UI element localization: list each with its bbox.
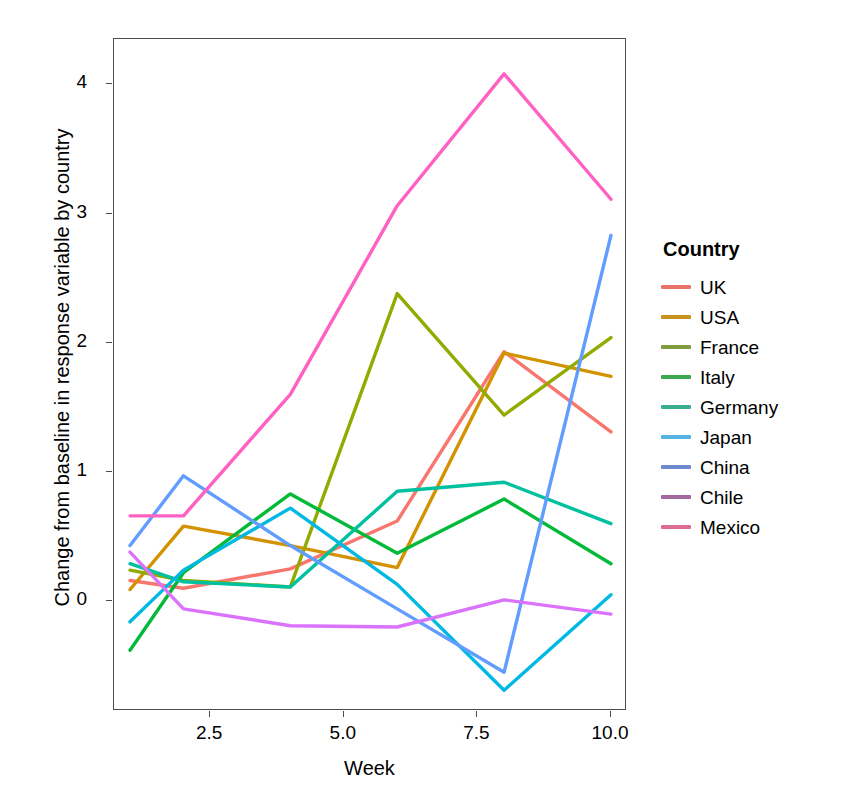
- x-tick-mark: [476, 711, 477, 717]
- y-tick-label: 1: [76, 460, 87, 479]
- legend-item-label: Mexico: [700, 518, 760, 537]
- legend-color-swatch-icon: [661, 495, 691, 499]
- legend-item-mexico[interactable]: Mexico: [661, 512, 778, 542]
- legend-items: UKUSAFranceItalyGermanyJapanChinaChileMe…: [661, 272, 778, 542]
- y-tick-mark: [106, 213, 112, 214]
- y-tick-mark: [106, 342, 112, 343]
- legend-color-swatch-icon: [661, 375, 691, 379]
- legend-item-japan[interactable]: Japan: [661, 422, 778, 452]
- y-tick-label: 3: [76, 202, 87, 221]
- y-tick-mark: [106, 471, 112, 472]
- legend-color-swatch-icon: [661, 525, 691, 529]
- x-tick-mark: [610, 711, 611, 717]
- legend-item-germany[interactable]: Germany: [661, 392, 778, 422]
- y-tick-label: 4: [76, 72, 87, 91]
- legend-title: Country: [663, 238, 778, 261]
- legend-item-uk[interactable]: UK: [661, 272, 778, 302]
- x-tick-label: 5.0: [308, 722, 378, 744]
- chart-root: Change from baseline in response variabl…: [0, 0, 843, 811]
- legend-color-swatch-icon: [661, 315, 691, 319]
- legend: Country UKUSAFranceItalyGermanyJapanChin…: [661, 238, 778, 542]
- legend-item-label: Chile: [700, 488, 743, 507]
- y-tick-label: 0: [76, 589, 87, 608]
- legend-item-france[interactable]: France: [661, 332, 778, 362]
- y-tick-mark: [106, 600, 112, 601]
- series-line-china: [130, 235, 611, 672]
- plot-panel: [113, 38, 626, 710]
- legend-item-chile[interactable]: Chile: [661, 482, 778, 512]
- y-tick-label: 2: [76, 331, 87, 350]
- legend-item-label: Italy: [700, 368, 735, 387]
- legend-item-china[interactable]: China: [661, 452, 778, 482]
- legend-color-swatch-icon: [661, 345, 691, 349]
- legend-item-label: UK: [700, 278, 726, 297]
- x-tick-label: 10.0: [575, 722, 645, 744]
- x-tick-label: 7.5: [441, 722, 511, 744]
- legend-item-italy[interactable]: Italy: [661, 362, 778, 392]
- series-line-uk: [130, 352, 611, 588]
- x-tick-label: 2.5: [174, 722, 244, 744]
- legend-item-label: Germany: [700, 398, 778, 417]
- series-line-mexico: [130, 74, 611, 516]
- x-tick-mark: [343, 711, 344, 717]
- legend-item-label: France: [700, 338, 759, 357]
- legend-color-swatch-icon: [661, 435, 691, 439]
- legend-color-swatch-icon: [661, 285, 691, 289]
- legend-item-usa[interactable]: USA: [661, 302, 778, 332]
- legend-item-label: Japan: [700, 428, 752, 447]
- legend-item-label: China: [700, 458, 750, 477]
- legend-item-label: USA: [700, 308, 739, 327]
- x-axis-title: Week: [113, 757, 626, 780]
- legend-color-swatch-icon: [661, 465, 691, 469]
- y-axis-title: Change from baseline in response variabl…: [51, 38, 74, 698]
- series-line-france: [130, 294, 611, 587]
- x-tick-mark: [209, 711, 210, 717]
- plot-lines: [114, 39, 627, 711]
- y-tick-mark: [106, 83, 112, 84]
- legend-color-swatch-icon: [661, 405, 691, 409]
